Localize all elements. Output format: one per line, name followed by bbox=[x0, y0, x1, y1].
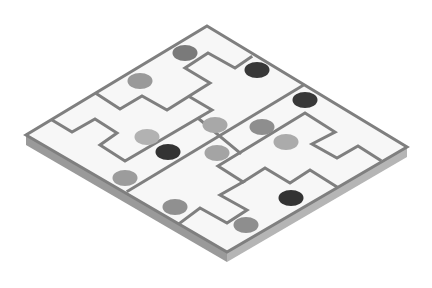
piece-medium-14[interactable] bbox=[234, 217, 259, 233]
piece-black-13[interactable] bbox=[279, 190, 304, 206]
isometric-puzzle-board bbox=[0, 0, 432, 288]
piece-light-10[interactable] bbox=[205, 145, 230, 161]
piece-medium-6[interactable] bbox=[250, 119, 275, 135]
piece-light-5[interactable] bbox=[203, 117, 228, 133]
piece-light-8[interactable] bbox=[274, 134, 299, 150]
piece-light-7[interactable] bbox=[135, 129, 160, 145]
piece-black-2[interactable] bbox=[245, 62, 270, 78]
piece-medium-11[interactable] bbox=[113, 170, 138, 186]
puzzle-stage bbox=[0, 0, 432, 288]
piece-medium-dark-1[interactable] bbox=[173, 45, 198, 61]
piece-black-4[interactable] bbox=[293, 92, 318, 108]
piece-black-9[interactable] bbox=[156, 144, 181, 160]
piece-medium-3[interactable] bbox=[128, 73, 153, 89]
piece-medium-12[interactable] bbox=[163, 199, 188, 215]
